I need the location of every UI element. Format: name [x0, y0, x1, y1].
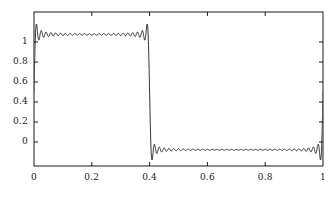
- y-tick-label: 0.4: [0, 96, 28, 106]
- x-axis-ticks: [92, 12, 265, 166]
- x-tick-label: 0: [14, 172, 54, 182]
- x-tick-label: 0.2: [72, 172, 112, 182]
- y-tick-label: 1: [0, 36, 28, 46]
- data-series-line: [34, 24, 323, 160]
- y-tick-label: 0.8: [0, 56, 28, 66]
- y-tick-label: 0.2: [0, 116, 28, 126]
- x-tick-label: 0.4: [130, 172, 170, 182]
- gibbs-phenomenon-plot: [0, 0, 336, 197]
- x-tick-label: 0.8: [245, 172, 285, 182]
- figure-canvas: 00.20.40.60.81 00.20.40.60.81: [0, 0, 336, 197]
- x-tick-label: 0.6: [187, 172, 227, 182]
- x-tick-label: 1: [303, 172, 336, 182]
- y-tick-label: 0: [0, 136, 28, 146]
- y-axis-ticks: [34, 42, 323, 142]
- y-tick-label: 0.6: [0, 76, 28, 86]
